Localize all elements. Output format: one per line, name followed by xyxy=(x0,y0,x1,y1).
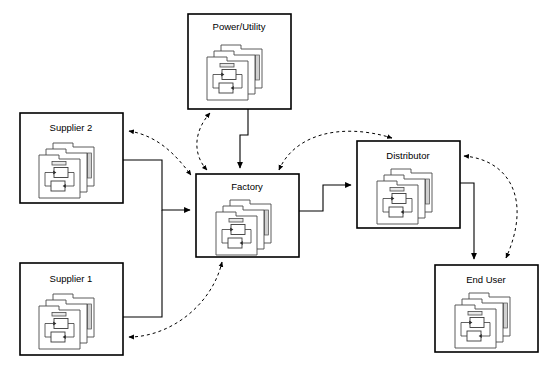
node-factory-label: Factory xyxy=(231,181,263,192)
diagram-svg: Supplier 2 right --> Supplier 1 right-bo… xyxy=(0,0,547,368)
node-factory[interactable]: Factory xyxy=(196,174,299,257)
node-end-user-label: End User xyxy=(466,274,506,285)
edge-factory-to-distributor xyxy=(299,185,351,211)
node-supplier-2-label: Supplier 2 xyxy=(50,122,93,133)
edge-distributor-enduser-feedback xyxy=(464,156,517,258)
stacked-process-model-icon xyxy=(455,293,510,348)
edge-supplier1-to-factory xyxy=(123,210,162,317)
stacked-process-model-icon xyxy=(207,45,262,100)
edge-supplier2-to-factory xyxy=(123,160,190,210)
node-distributor[interactable]: Distributor xyxy=(357,141,460,228)
node-supplier-1-label: Supplier 1 xyxy=(50,273,93,284)
node-supplier-1[interactable]: Supplier 1 xyxy=(20,263,123,355)
edge-factory-powerutility-feedback xyxy=(197,113,210,170)
stacked-process-model-icon xyxy=(377,169,432,224)
node-distributor-label: Distributor xyxy=(386,150,429,161)
diagram-canvas: Supplier 2 right --> Supplier 1 right-bo… xyxy=(0,0,547,368)
edge-factory-supplier1-feedback xyxy=(129,262,222,337)
node-end-user[interactable]: End User xyxy=(435,265,538,352)
edge-distributor-to-enduser xyxy=(460,183,474,259)
edge-factory-supplier2-feedback xyxy=(129,131,191,175)
node-supplier-2[interactable]: Supplier 2 xyxy=(20,113,123,203)
node-power-utility-label: Power/Utility xyxy=(213,21,266,32)
stacked-process-model-icon xyxy=(39,143,94,198)
node-power-utility[interactable]: Power/Utility xyxy=(188,14,291,109)
edge-powerutility-to-factory xyxy=(240,109,248,168)
stacked-process-model-icon xyxy=(216,200,271,255)
stacked-process-model-icon xyxy=(39,294,94,349)
